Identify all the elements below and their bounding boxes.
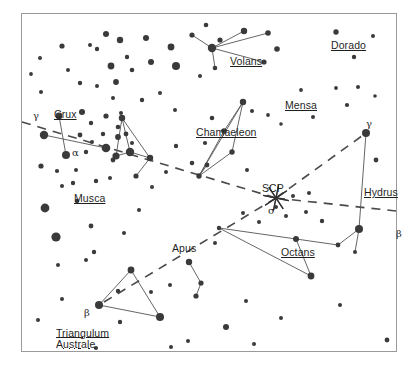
star	[186, 339, 190, 343]
star	[29, 72, 33, 76]
star	[213, 241, 217, 245]
star	[62, 151, 70, 159]
constellation-label-volans: Volans	[230, 55, 262, 67]
star	[203, 141, 207, 145]
constellation-label-octans: Octans	[281, 246, 315, 258]
star	[196, 173, 201, 178]
star	[257, 220, 261, 224]
star-label-hydrus-beta: β	[396, 228, 402, 239]
star	[291, 194, 295, 198]
star	[356, 85, 360, 89]
star	[189, 32, 194, 37]
star	[92, 250, 96, 254]
constellation-label-line-2: Australe	[56, 339, 109, 350]
star	[78, 81, 82, 85]
star	[338, 303, 342, 307]
star	[90, 140, 94, 144]
star	[266, 113, 270, 117]
star	[113, 79, 119, 85]
star	[244, 299, 248, 303]
star	[345, 103, 349, 107]
star	[240, 99, 246, 105]
star	[190, 161, 195, 166]
constellation-line-segment	[59, 116, 66, 155]
star	[116, 289, 120, 293]
star	[198, 280, 203, 285]
star	[55, 169, 59, 173]
star	[56, 263, 60, 267]
star	[143, 35, 149, 41]
star	[250, 109, 254, 113]
star-chart-root: CruxMuscaVolansDoradoMensaChamaeleonHydr…	[0, 0, 418, 368]
star	[39, 90, 43, 94]
star-label-hydrus-gamma: γ	[366, 118, 372, 129]
star-field	[29, 23, 389, 350]
constellation-line-segment	[99, 305, 160, 317]
star	[40, 131, 48, 139]
star	[89, 224, 94, 229]
constellation-label-triangulum-australe: TriangulumAustrale	[56, 328, 109, 349]
star	[60, 184, 64, 188]
star	[198, 74, 202, 78]
star	[66, 68, 70, 72]
dash-scp-to-east	[276, 198, 396, 211]
star	[103, 31, 109, 37]
star	[130, 68, 135, 73]
star	[241, 28, 247, 34]
star	[208, 44, 216, 52]
star	[59, 43, 64, 48]
star	[117, 37, 123, 43]
star	[168, 44, 175, 51]
star	[108, 63, 115, 70]
star	[173, 108, 177, 112]
star	[307, 191, 311, 195]
star	[41, 204, 50, 213]
star	[133, 173, 138, 178]
star	[126, 148, 134, 156]
constellation-line-segment	[359, 133, 366, 229]
star	[74, 168, 78, 172]
star	[355, 225, 363, 233]
star-label-crux-alpha: α	[72, 147, 79, 158]
star	[320, 219, 324, 223]
star	[38, 163, 43, 168]
star	[103, 113, 108, 118]
constellation-line-segment	[219, 228, 296, 239]
star	[95, 47, 99, 51]
constellation-lines-musca	[116, 118, 150, 176]
star	[84, 150, 88, 154]
star	[118, 320, 122, 324]
star	[122, 231, 126, 235]
star	[111, 96, 115, 100]
star	[336, 243, 341, 248]
constellation-label-musca: Musca	[74, 192, 105, 204]
star	[60, 297, 64, 301]
constellation-label-chamaeleon: Chamaeleon	[196, 126, 257, 138]
star	[169, 345, 173, 349]
scp-center-dot	[274, 196, 278, 200]
constellation-label-line-1: Triangulum	[56, 328, 109, 339]
star	[193, 293, 198, 298]
star	[79, 109, 85, 115]
star	[217, 226, 221, 230]
star	[204, 23, 209, 28]
star	[245, 168, 249, 172]
star	[140, 98, 144, 102]
star	[89, 121, 93, 125]
star	[217, 37, 222, 42]
constellation-line-segment	[189, 262, 201, 283]
star	[125, 55, 129, 59]
star	[334, 86, 338, 90]
star	[172, 62, 180, 70]
constellation-line-segment	[199, 152, 232, 176]
constellation-label-dorado: Dorado	[331, 39, 366, 51]
star	[147, 155, 153, 161]
star	[293, 236, 299, 242]
star	[111, 158, 116, 163]
star	[374, 158, 379, 163]
star	[95, 301, 103, 309]
star	[128, 267, 135, 274]
star	[158, 91, 162, 95]
star	[362, 129, 370, 137]
constellation-label-mensa: Mensa	[285, 99, 317, 111]
